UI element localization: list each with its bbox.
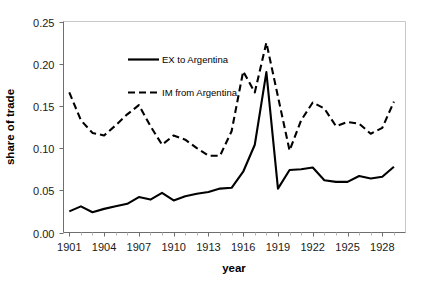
y-tick-label: 0.10 <box>33 143 54 155</box>
x-tick-label: 1916 <box>231 241 255 253</box>
legend-label-im-from-argentina: IM from Argentina <box>162 87 238 98</box>
x-tick-label: 1910 <box>161 241 185 253</box>
chart-container: 0.000.050.100.150.200.25 190119041907191… <box>0 0 428 290</box>
x-tick-label: 1922 <box>301 241 325 253</box>
y-axis-title: share of trade <box>4 89 16 165</box>
y-tick-label: 0.00 <box>33 228 54 240</box>
legend-label-ex-to-argentina: EX to Argentina <box>162 54 229 65</box>
x-tick-label: 1907 <box>127 241 151 253</box>
x-tick-label: 1904 <box>92 241 116 253</box>
x-tick-label: 1925 <box>335 241 359 253</box>
x-tick-label: 1901 <box>57 241 81 253</box>
x-axis-title: year <box>222 262 246 274</box>
x-tick-label: 1928 <box>370 241 394 253</box>
x-tick-label: 1919 <box>266 241 290 253</box>
y-tick-label: 0.15 <box>33 101 54 113</box>
x-tick-label: 1913 <box>196 241 220 253</box>
y-tick-label: 0.25 <box>33 17 54 29</box>
line-chart: 0.000.050.100.150.200.25 190119041907191… <box>0 0 428 290</box>
y-tick-label: 0.05 <box>33 185 54 197</box>
y-tick-label: 0.20 <box>33 59 54 71</box>
